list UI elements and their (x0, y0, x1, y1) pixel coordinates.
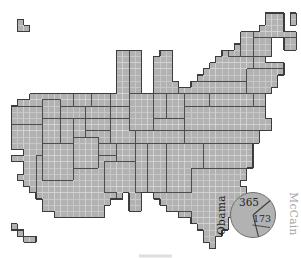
cartogram-svg: 365 173 Obama McCain (0, 0, 301, 258)
obama-votes-label: 365 (239, 196, 259, 208)
obama-name-label: Obama (215, 195, 227, 235)
election-cartogram-figure: 365 173 Obama McCain (0, 0, 301, 258)
mccain-name-label: McCain (288, 192, 300, 235)
mccain-votes-label: 173 (253, 213, 271, 224)
cropped-caption-remnant (139, 255, 172, 258)
